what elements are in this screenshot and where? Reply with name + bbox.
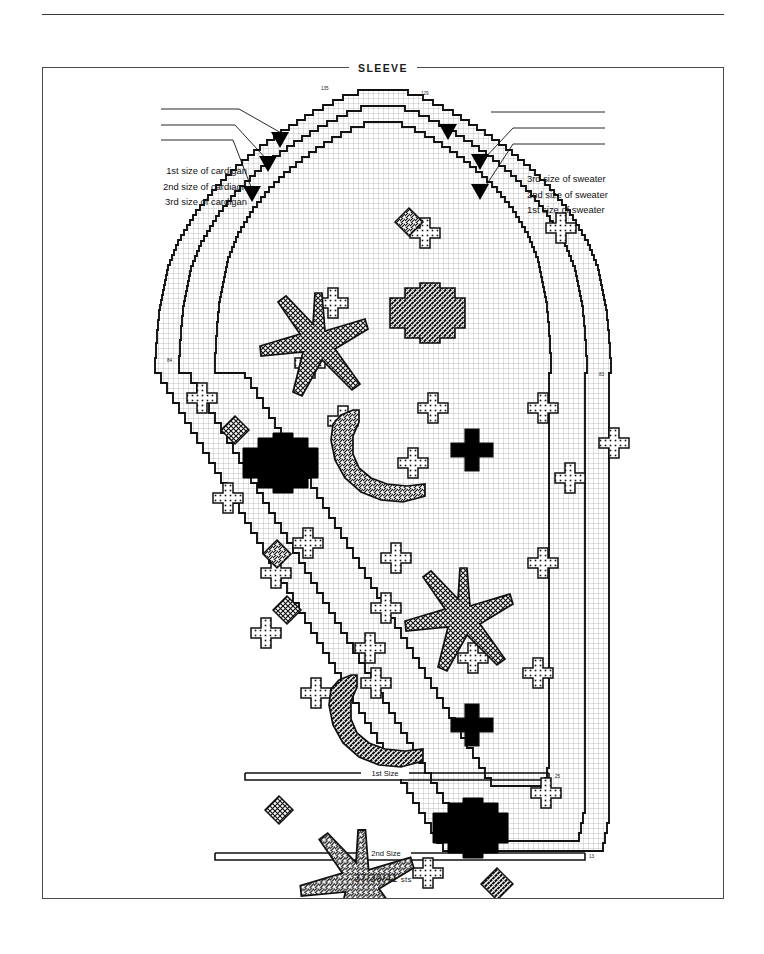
rownum-1st-size-right: 25 bbox=[555, 774, 561, 779]
footer-stitch-count: 37/39/41 sts bbox=[43, 872, 723, 884]
rownum-mid-right: 83 bbox=[599, 372, 605, 377]
chart-frame: SLEEVE bbox=[42, 67, 724, 899]
rownum-top-right: 129 bbox=[421, 91, 429, 96]
star-icon bbox=[300, 830, 413, 898]
callout-right-3rd: 3rd size of sweater bbox=[527, 171, 608, 187]
callouts-right-group: 3rd size of sweater 2nd size of sweater … bbox=[527, 171, 608, 218]
rownum-top-left: 135 bbox=[321, 86, 329, 91]
size-label-2nd: 2nd Size bbox=[371, 849, 401, 858]
callout-left-3rd: 3rd size of cardigan bbox=[163, 194, 247, 210]
leader-left-1st bbox=[161, 109, 283, 134]
callout-right-1st: 1st size of sweater bbox=[527, 202, 608, 218]
diamond-icon bbox=[265, 796, 293, 824]
page-canvas: SLEEVE bbox=[0, 0, 764, 954]
callouts-left-group: 1st size of cardigan 2nd size of cardiag… bbox=[163, 163, 247, 210]
callout-left-2nd: 2nd size of cardiagn bbox=[163, 179, 247, 195]
callout-right-2nd: 2nd size of sweater bbox=[527, 187, 608, 203]
callout-left-1st: 1st size of cardigan bbox=[163, 163, 247, 179]
size-label-1st: 1st Size bbox=[371, 769, 398, 778]
star-light-group bbox=[300, 830, 413, 898]
small-cross-icon bbox=[301, 678, 331, 708]
rownum-mid-left: 84 bbox=[167, 358, 173, 363]
top-rule-divider bbox=[42, 14, 724, 15]
small-cross-icon bbox=[251, 618, 281, 648]
rownum-2nd-size-right: 13 bbox=[589, 854, 595, 859]
sleeve-chart: 1st Size 2nd Size 3rd Size bbox=[43, 68, 723, 898]
footer-stitch-unit: sts bbox=[401, 875, 412, 884]
footer-stitch-numbers: 37/39/41 bbox=[354, 872, 397, 884]
